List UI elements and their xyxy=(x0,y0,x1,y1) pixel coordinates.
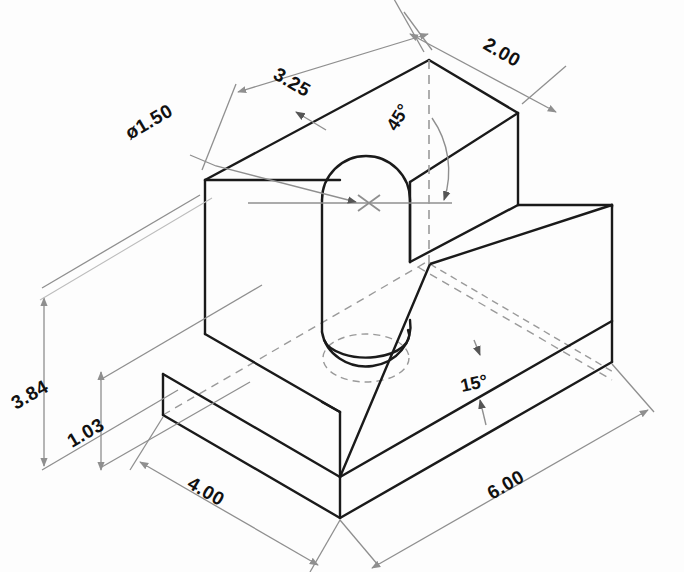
dim-line-1-03 xyxy=(100,285,262,470)
construction-line xyxy=(40,198,212,300)
isometric-drawing: ø1.50 3.25 2.00 3.84 1.03 4.00 6.00 45° … xyxy=(0,0,684,572)
technical-drawing-canvas: ø1.50 3.25 2.00 3.84 1.03 4.00 6.00 45° … xyxy=(0,0,684,572)
dim-text-15-deg: 15° xyxy=(459,371,490,396)
leader-diameter xyxy=(190,155,356,202)
dim-label-base-length: 6.00 xyxy=(484,466,528,504)
dim-text-3-25: 3.25 xyxy=(270,63,314,101)
dim-label-angle-15: 15° xyxy=(459,371,490,396)
hidden-lines-right xyxy=(430,264,615,373)
dim-text-2-00: 2.00 xyxy=(480,33,524,71)
dim-line-3-84 xyxy=(42,195,200,470)
dim-line-4-00 xyxy=(130,417,340,572)
dim-label-top-width: 2.00 xyxy=(480,33,524,71)
dim-label-overall-height: 3.84 xyxy=(8,376,52,414)
dim-text-45-deg: 45° xyxy=(382,100,413,134)
dim-label-diameter: ø1.50 xyxy=(122,100,177,144)
dim-text-6-00: 6.00 xyxy=(484,466,528,504)
dim-text-diameter: ø1.50 xyxy=(122,100,177,144)
object-lines xyxy=(163,60,612,518)
dim-line-3-25 xyxy=(202,0,428,170)
cylindrical-boss xyxy=(322,156,410,366)
dim-label-top-length: 3.25 xyxy=(270,63,314,101)
dim-label-angle-45: 45° xyxy=(382,100,413,134)
dim-line-6-00 xyxy=(340,364,654,568)
dim-text-3-84: 3.84 xyxy=(8,376,52,414)
dim-text-4-00: 4.00 xyxy=(184,472,228,510)
dim-label-base-width: 4.00 xyxy=(184,472,228,510)
